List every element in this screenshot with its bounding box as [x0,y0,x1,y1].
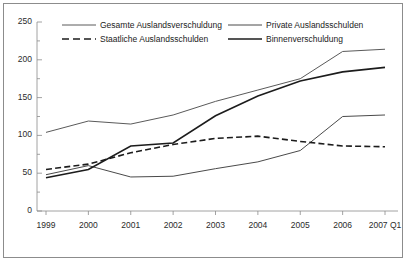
x-axis-tick-label: 2001 [108,220,154,230]
x-axis-tick-label: 2007 Q1 [362,220,408,230]
series-line-0 [46,49,385,132]
x-axis-tick-label: 2000 [65,220,111,230]
legend-entry: Staatliche Auslandsschulden [62,34,208,44]
legend-label: Gesamte Auslandsverschuldung [100,20,222,30]
y-axis-tick-label: 50 [8,167,32,177]
x-axis-tick-label: 2005 [277,220,323,230]
y-axis-tick-label: 200 [8,54,32,64]
y-axis-tick-label: 100 [8,129,32,139]
x-axis-tick-label: 2004 [235,220,281,230]
legend-swatch-line-icon [228,35,262,43]
legend-label: Binnenverschuldung [266,34,343,44]
legend-swatch-line-icon [228,21,262,29]
y-axis-tick-label: 0 [8,205,32,215]
legend-swatch-line-icon [62,21,96,29]
y-axis-tick-label: 250 [8,16,32,26]
legend-label: Staatliche Auslandsschulden [100,34,208,44]
y-axis-tick-label: 150 [8,92,32,102]
chart-container: 050100150200250 199920002001200220032004… [0,0,408,263]
x-axis-tick-label: 1999 [23,220,69,230]
legend-swatch-line-icon [62,35,96,43]
legend-label: Private Auslandsschulden [266,20,363,30]
legend-entry: Private Auslandsschulden [228,20,363,30]
x-axis-tick-label: 2003 [193,220,239,230]
x-axis-tick-label: 2006 [320,220,366,230]
series-line-1 [46,115,385,177]
x-axis-tick-label: 2002 [150,220,196,230]
legend-entry: Gesamte Auslandsverschuldung [62,20,222,30]
legend-entry: Binnenverschuldung [228,34,343,44]
